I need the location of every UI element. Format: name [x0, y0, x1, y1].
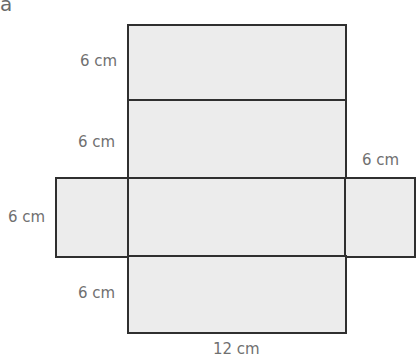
left-face	[55, 177, 130, 258]
bottom-face	[127, 255, 347, 334]
bottom-width-label: 12 cm	[213, 340, 260, 358]
center-face	[127, 177, 347, 258]
bottom-height-label: 6 cm	[78, 284, 115, 302]
top-face	[127, 24, 347, 102]
upper-middle-height-label: 6 cm	[78, 133, 115, 151]
part-label: a	[0, 0, 12, 16]
right-face	[344, 177, 416, 258]
right-width-label: 6 cm	[362, 151, 399, 169]
top-height-label: 6 cm	[80, 52, 117, 70]
left-height-label: 6 cm	[8, 208, 45, 226]
upper-middle-face	[127, 99, 347, 180]
